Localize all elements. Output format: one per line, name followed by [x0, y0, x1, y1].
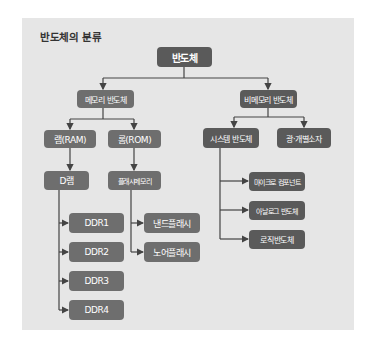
node-rom: 롬(ROM)	[108, 130, 161, 148]
node-micro-component: 마이크로 컴포넌트	[249, 172, 305, 191]
node-nand-flash: 낸드플래시	[144, 213, 200, 233]
node-ddr3: DDR3	[69, 271, 124, 291]
node-non-memory-semiconductor: 비메모리 반도체	[240, 90, 297, 108]
node-memory-semiconductor: 메모리 반도체	[77, 90, 134, 108]
node-dram: D램	[44, 171, 89, 190]
node-ddr1: DDR1	[69, 213, 124, 233]
node-ddr4: DDR4	[69, 300, 124, 320]
node-logic-semiconductor: 로직반도체	[249, 230, 305, 249]
node-nor-flash: 노어플래시	[144, 242, 200, 262]
node-analog-semiconductor: 아날로그 반도체	[249, 201, 305, 220]
node-optical-discrete: 광·개별소자	[277, 128, 331, 148]
node-flash-memory: 플래시메모리	[108, 171, 161, 190]
node-system-semiconductor: 시스템 반도체	[203, 128, 259, 148]
node-semiconductor: 반도체	[157, 47, 212, 67]
node-ddr2: DDR2	[69, 242, 124, 262]
node-ram: 램(RAM)	[44, 130, 96, 148]
